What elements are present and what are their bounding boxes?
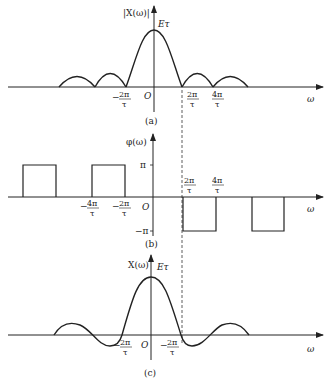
panel-a: |X(ω)| Eτ O ω − 2π τ 2π τ 4π τ (a) — [8, 6, 323, 126]
tick-numerator: 2π — [119, 199, 129, 208]
tick-denominator: τ — [170, 348, 175, 357]
tick-numerator: 4π — [87, 199, 97, 208]
panel-a-origin: O — [144, 91, 152, 101]
tick-denominator: τ — [215, 186, 220, 195]
panel-c: X(ω) Eτ O ω − 2π τ − 2π τ (c) — [8, 255, 323, 378]
panel-b-phase-pos-rect — [23, 165, 125, 197]
tick-numerator: 4π — [212, 176, 222, 185]
panel-b-ylabel: φ(ω) — [126, 137, 147, 147]
tick-denominator: τ — [122, 209, 127, 218]
tick-numerator: 2π — [120, 338, 130, 347]
panel-a-caption: (a) — [145, 116, 157, 126]
panel-b: φ(ω) π −π O ω − 4π τ − 2π τ 2π τ 4π τ (b… — [8, 134, 323, 249]
panel-b-phase-neg-rect — [183, 197, 284, 231]
tick-denominator: τ — [123, 348, 128, 357]
tick-denominator: τ — [190, 100, 195, 109]
panel-b-pi-label: π — [140, 160, 146, 170]
tick-numerator: 2π — [119, 90, 129, 99]
tick-denominator: τ — [187, 186, 192, 195]
panel-b-caption: (b) — [145, 239, 158, 249]
panel-c-caption: (c) — [144, 368, 156, 378]
panel-a-peak-label: Eτ — [157, 19, 171, 29]
panel-b-neg-pi-label: −π — [135, 226, 149, 236]
panel-a-ylabel: |X(ω)| — [123, 8, 150, 19]
panel-b-origin: O — [142, 202, 150, 212]
panel-b-xlabel: ω — [307, 204, 315, 214]
tick-denominator: τ — [215, 100, 220, 109]
figure-canvas: |X(ω)| Eτ O ω − 2π τ 2π τ 4π τ (a) φ(ω) … — [0, 0, 328, 383]
panel-c-ylabel: X(ω) — [128, 260, 149, 270]
panel-c-peak-label: Eτ — [156, 262, 170, 272]
tick-denominator: τ — [122, 100, 127, 109]
tick-numerator: 2π — [167, 338, 177, 347]
panel-c-xlabel: ω — [307, 344, 315, 354]
panel-c-origin: O — [141, 340, 149, 350]
tick-numerator: 4π — [212, 90, 222, 99]
panel-a-xlabel: ω — [307, 94, 315, 104]
tick-numerator: 2π — [184, 176, 194, 185]
tick-denominator: τ — [90, 209, 95, 218]
tick-numerator: 2π — [187, 90, 197, 99]
